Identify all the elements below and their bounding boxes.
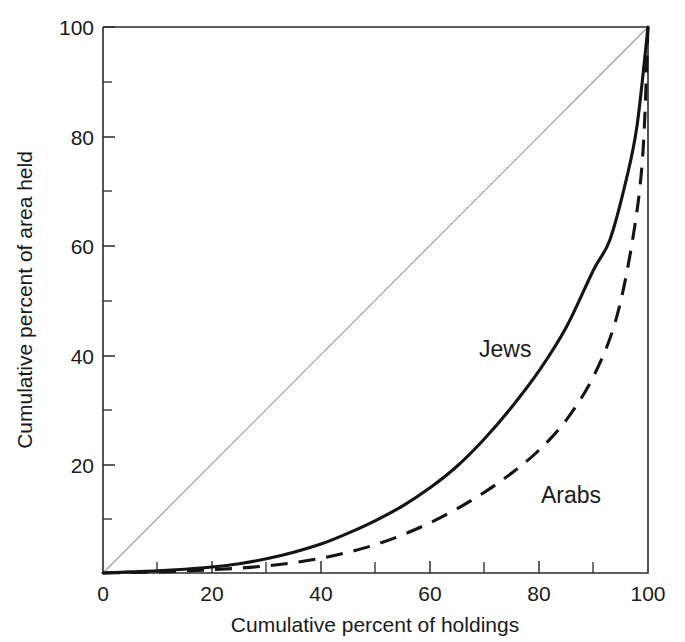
- series-annotation-jews: Jews: [479, 336, 531, 362]
- x-tick-label-40: 40: [309, 582, 332, 605]
- y-tick-label-60: 60: [71, 235, 94, 258]
- y-tick-label-20: 20: [71, 454, 94, 477]
- chart-svg: 100 80 60 40 20 0 20 40 60 80 100 Cumula…: [0, 0, 685, 642]
- y-tick-label-80: 80: [71, 126, 94, 149]
- y-tick-labels: 100 80 60 40 20: [59, 16, 94, 477]
- lorenz-curve-figure: 100 80 60 40 20 0 20 40 60 80 100 Cumula…: [0, 0, 685, 642]
- x-tick-label-100: 100: [630, 582, 665, 605]
- y-axis-ticks: [103, 27, 115, 519]
- x-axis-title: Cumulative percent of holdings: [231, 613, 519, 636]
- x-tick-label-80: 80: [527, 582, 550, 605]
- x-tick-labels: 0 20 40 60 80 100: [97, 582, 665, 605]
- series-annotation-arabs: Arabs: [541, 482, 601, 508]
- y-axis-title: Cumulative percent of area held: [13, 151, 36, 449]
- x-tick-label-20: 20: [200, 582, 223, 605]
- y-tick-label-100: 100: [59, 16, 94, 39]
- x-tick-label-0: 0: [97, 582, 109, 605]
- y-tick-label-40: 40: [71, 345, 94, 368]
- x-tick-label-60: 60: [418, 582, 441, 605]
